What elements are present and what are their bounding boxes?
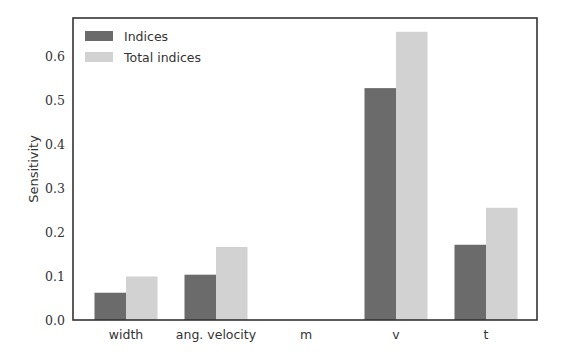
bar-total-indices-ang-velocity [216, 247, 248, 320]
legend-label-total-indices: Total indices [123, 50, 201, 65]
y-axis-label: Sensitivity [26, 135, 41, 203]
x-tick-label: ang. velocity [176, 327, 257, 342]
x-tick-label: t [484, 327, 489, 342]
bar-indices-ang-velocity [185, 275, 217, 320]
y-tick-label: 0.1 [45, 269, 65, 284]
x-axis-ticks: widthang. velocitymvt [109, 327, 489, 342]
legend-swatch-indices [85, 31, 113, 41]
y-tick-label: 0.6 [45, 49, 65, 64]
y-tick-label: 0.2 [45, 225, 65, 240]
bars-layer [95, 32, 518, 320]
bar-indices-t [455, 245, 487, 320]
legend-swatch-total-indices [85, 52, 113, 62]
x-tick-label: m [300, 327, 312, 342]
bar-chart: 0.00.10.20.30.40.50.6 widthang. velocity… [0, 0, 564, 357]
x-tick-label: width [109, 327, 143, 342]
bar-total-indices-width [126, 276, 158, 320]
y-tick-label: 0.0 [45, 313, 65, 328]
x-tick-label: v [392, 327, 400, 342]
bar-total-indices-t [486, 208, 518, 320]
y-tick-label: 0.4 [45, 137, 65, 152]
y-tick-label: 0.3 [45, 181, 65, 196]
bar-indices-v [365, 88, 397, 320]
bar-total-indices-v [396, 32, 428, 320]
legend: Indices Total indices [85, 29, 201, 65]
y-tick-label: 0.5 [45, 93, 65, 108]
bar-indices-width [95, 293, 127, 320]
y-axis-ticks: 0.00.10.20.30.40.50.6 [45, 49, 65, 328]
legend-label-indices: Indices [124, 29, 168, 44]
